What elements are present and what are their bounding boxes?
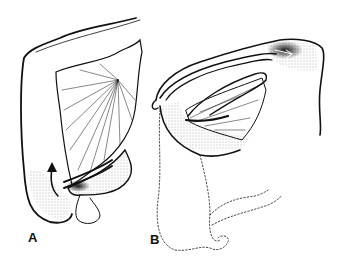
illustration-svg (0, 0, 343, 268)
panel-b-label: B (150, 232, 159, 247)
panel-a-drawing (21, 18, 142, 223)
anatomical-illustration: A B (0, 0, 343, 268)
panel-a-label: A (28, 230, 37, 245)
panel-b-drawing (152, 39, 323, 250)
